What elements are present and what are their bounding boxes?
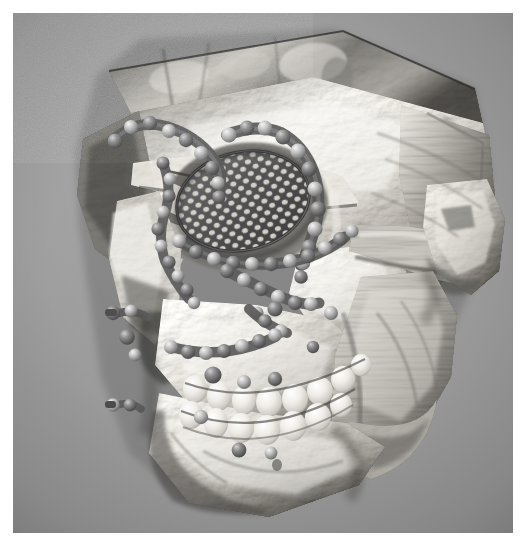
ct-scan-image: CT 3D volume rendering (VRT) oblique lef…: [13, 13, 513, 533]
figure-root: CT 3D volume rendering (VRT) oblique lef…: [0, 0, 524, 544]
skull-volume-rendering: [13, 13, 513, 533]
